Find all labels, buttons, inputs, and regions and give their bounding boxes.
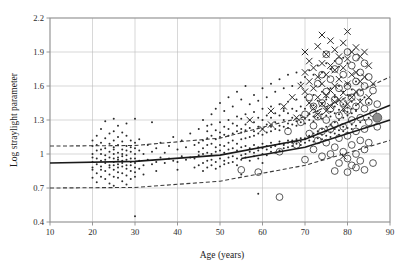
point-dot xyxy=(228,128,230,130)
point-cross xyxy=(289,94,295,100)
point-dot xyxy=(96,150,98,152)
point-dot xyxy=(228,96,230,98)
point-dot xyxy=(100,142,102,144)
point-dot xyxy=(334,105,336,107)
point-dot xyxy=(104,120,106,122)
point-dot xyxy=(138,150,140,152)
point-dot xyxy=(296,143,298,145)
point-dot xyxy=(325,135,327,137)
point-dot xyxy=(164,162,166,164)
point-dot xyxy=(279,114,281,116)
point-dot xyxy=(126,168,128,170)
point-dot xyxy=(249,103,251,105)
point-dot xyxy=(355,125,357,127)
point-dot xyxy=(304,76,306,78)
point-dot xyxy=(206,144,208,146)
point-dot xyxy=(283,126,285,128)
point-dot xyxy=(253,111,255,113)
point-dot xyxy=(325,126,327,128)
point-dot xyxy=(198,151,200,153)
point-dot xyxy=(215,108,217,110)
point-circle xyxy=(310,146,317,153)
point-dot xyxy=(121,153,123,155)
y-tick-label: 1.9 xyxy=(33,47,44,57)
point-dot xyxy=(245,137,247,139)
point-dot xyxy=(338,66,340,68)
y-tick-label: 1.6 xyxy=(33,81,44,91)
point-dot xyxy=(168,145,170,147)
point-dot xyxy=(342,57,344,59)
point-dot xyxy=(236,91,238,93)
point-dot xyxy=(215,161,217,163)
point-dot xyxy=(279,103,281,105)
point-dot xyxy=(117,156,119,158)
point-dot xyxy=(257,126,259,128)
point-dot xyxy=(126,150,128,152)
point-dot xyxy=(121,148,123,150)
point-cross xyxy=(336,76,342,82)
x-tick-label: 60 xyxy=(258,227,267,237)
point-circle xyxy=(331,66,338,73)
point-dot xyxy=(219,150,221,152)
point-dot xyxy=(202,170,204,172)
point-dot xyxy=(155,161,157,163)
point-circle xyxy=(336,160,343,167)
point-dot xyxy=(126,175,128,177)
point-dot xyxy=(291,117,293,119)
point-dot xyxy=(104,159,106,161)
point-dot xyxy=(253,130,255,132)
point-dot xyxy=(100,176,102,178)
point-dot xyxy=(245,129,247,131)
point-dot xyxy=(308,139,310,141)
y-axis-title: Log straylight parameter xyxy=(9,72,19,167)
point-dot xyxy=(304,108,306,110)
point-dot xyxy=(347,111,349,113)
point-cross xyxy=(327,37,333,43)
point-dot xyxy=(236,116,238,118)
point-dot xyxy=(304,118,306,120)
point-dot xyxy=(334,94,336,96)
point-cross xyxy=(353,44,359,50)
point-dot xyxy=(172,160,174,162)
x-tick-label: 10 xyxy=(46,227,55,237)
point-dot xyxy=(109,143,111,145)
point-dot xyxy=(211,143,213,145)
point-dot xyxy=(134,162,136,164)
point-dot xyxy=(185,146,187,148)
point-dot xyxy=(215,146,217,148)
point-dot xyxy=(342,126,344,128)
point-dot xyxy=(206,160,208,162)
point-dot xyxy=(325,99,327,101)
point-dot xyxy=(202,153,204,155)
point-dot xyxy=(236,143,238,145)
point-dot xyxy=(245,153,247,155)
point-dot xyxy=(347,62,349,64)
point-dot xyxy=(236,164,238,166)
x-tick-label: 80 xyxy=(343,227,352,237)
point-dot xyxy=(130,151,132,153)
x-axis-title: Age (years) xyxy=(200,250,245,261)
point-dot xyxy=(338,109,340,111)
point-dot xyxy=(228,156,230,158)
point-dot xyxy=(351,112,353,114)
point-dot xyxy=(300,137,302,139)
point-cross xyxy=(340,90,346,96)
point-dot xyxy=(219,144,221,146)
point-dot xyxy=(206,167,208,169)
point-dot xyxy=(164,152,166,154)
point-dot xyxy=(240,154,242,156)
point-dot xyxy=(270,142,272,144)
point-dot xyxy=(155,170,157,172)
point-dot xyxy=(117,167,119,169)
point-circle xyxy=(336,112,343,119)
x-tick-label: 20 xyxy=(88,227,97,237)
point-dot xyxy=(113,169,115,171)
point-dot xyxy=(117,177,119,179)
point-dot xyxy=(257,158,259,160)
point-dot xyxy=(206,125,208,127)
point-dot xyxy=(215,168,217,170)
point-dot xyxy=(104,147,106,149)
point-cross xyxy=(306,58,312,64)
point-circle xyxy=(285,128,292,135)
point-dot xyxy=(270,126,272,128)
